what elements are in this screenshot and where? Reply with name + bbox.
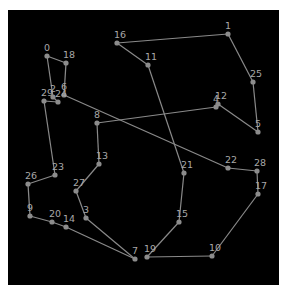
node-label-27: 27 (73, 177, 85, 188)
node-label-10: 10 (209, 242, 221, 253)
node-label-14: 14 (63, 213, 75, 224)
node-label-16: 16 (114, 29, 126, 40)
node-label-8: 8 (94, 109, 100, 120)
node-label-13: 13 (96, 150, 108, 161)
node-label-18: 18 (63, 49, 75, 60)
node-16 (114, 40, 119, 45)
node-25 (250, 79, 255, 84)
node-label-3: 3 (83, 204, 89, 215)
tour-diagram: 0123456789101112131415161718192021222324… (0, 0, 287, 294)
node-label-1: 1 (225, 20, 231, 31)
node-label-28: 28 (254, 157, 266, 168)
node-label-19: 19 (144, 243, 156, 254)
node-label-11: 11 (145, 51, 157, 62)
node-0 (44, 53, 49, 58)
node-label-0: 0 (44, 42, 50, 53)
node-label-26: 26 (25, 170, 37, 181)
node-24 (55, 99, 60, 104)
node-10 (209, 253, 214, 258)
node-label-24: 24 (55, 88, 67, 99)
node-22 (225, 165, 230, 170)
node-7 (132, 256, 137, 261)
node-29 (41, 98, 46, 103)
node-label-15: 15 (176, 208, 188, 219)
node-9 (27, 213, 32, 218)
node-5 (255, 129, 260, 134)
node-1 (225, 31, 230, 36)
node-label-25: 25 (250, 68, 262, 79)
node-20 (49, 219, 54, 224)
node-label-21: 21 (181, 159, 193, 170)
node-28 (254, 168, 259, 173)
node-label-7: 7 (132, 245, 138, 256)
node-21 (181, 170, 186, 175)
node-label-29: 29 (41, 87, 53, 98)
node-label-12: 12 (215, 90, 227, 101)
node-label-22: 22 (225, 154, 237, 165)
node-17 (255, 191, 260, 196)
node-23 (52, 172, 57, 177)
node-label-9: 9 (27, 202, 33, 213)
node-18 (63, 60, 68, 65)
node-27 (73, 188, 78, 193)
node-14 (63, 224, 68, 229)
node-label-5: 5 (255, 118, 261, 129)
node-15 (176, 219, 181, 224)
node-26 (25, 181, 30, 186)
node-8 (94, 120, 99, 125)
node-label-20: 20 (49, 208, 61, 219)
node-label-17: 17 (255, 180, 267, 191)
node-11 (145, 62, 150, 67)
node-13 (96, 161, 101, 166)
node-3 (83, 215, 88, 220)
node-19 (144, 254, 149, 259)
node-label-23: 23 (52, 161, 64, 172)
